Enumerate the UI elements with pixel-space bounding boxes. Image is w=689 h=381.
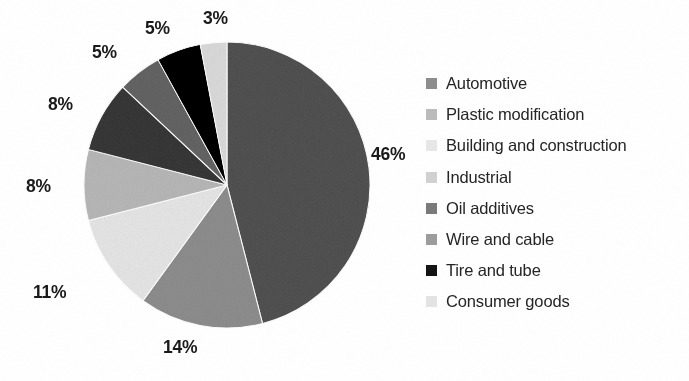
legend-item-label: Oil additives	[446, 199, 534, 218]
legend-item-label: Building and construction	[446, 136, 627, 155]
legend-item-label: Plastic modification	[446, 105, 584, 124]
pie-data-label: 8%	[48, 94, 73, 115]
chart-legend: AutomotivePlastic modificationBuilding a…	[426, 68, 684, 318]
legend-item-label: Consumer goods	[446, 292, 570, 311]
pie-data-label: 14%	[163, 337, 197, 358]
pie-data-label: 5%	[145, 18, 170, 39]
pie-data-label: 5%	[92, 42, 117, 63]
pie-chart-figure: 46%14%11%8%8%5%5%3% AutomotivePlastic mo…	[0, 0, 689, 381]
legend-item[interactable]: Tire and tube	[426, 255, 684, 286]
square-swatch-icon	[426, 203, 437, 214]
legend-item[interactable]: Wire and cable	[426, 224, 684, 255]
square-swatch-icon	[426, 140, 437, 151]
legend-item-label: Industrial	[446, 168, 511, 187]
legend-item[interactable]: Oil additives	[426, 193, 684, 224]
square-swatch-icon	[426, 234, 437, 245]
square-swatch-icon	[426, 296, 437, 307]
legend-item[interactable]: Industrial	[426, 162, 684, 193]
pie-chart-plot-area: 46%14%11%8%8%5%5%3%	[0, 0, 410, 381]
legend-item[interactable]: Consumer goods	[426, 286, 684, 317]
pie-data-label: 11%	[33, 282, 66, 303]
pie-slices-group	[0, 0, 410, 381]
legend-item-label: Wire and cable	[446, 230, 554, 249]
square-swatch-icon	[426, 78, 437, 89]
pie-data-label: 3%	[203, 8, 228, 29]
square-swatch-icon	[426, 265, 437, 276]
square-swatch-icon	[426, 109, 437, 120]
legend-item-label: Automotive	[446, 74, 527, 93]
legend-item[interactable]: Building and construction	[426, 130, 684, 161]
pie-data-label: 8%	[26, 176, 51, 197]
legend-item-label: Tire and tube	[446, 261, 541, 280]
legend-item[interactable]: Plastic modification	[426, 99, 684, 130]
pie-data-label: 46%	[371, 144, 405, 165]
legend-item[interactable]: Automotive	[426, 68, 684, 99]
square-swatch-icon	[426, 172, 437, 183]
